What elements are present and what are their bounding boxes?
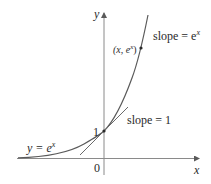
y-axis-label: y	[93, 7, 100, 21]
exp-graph: y x 0 1 y = ex (x, ex) slope = ex slope …	[0, 0, 211, 184]
point-label: (x, ex)	[113, 43, 137, 56]
y-intercept-label: 1	[93, 125, 99, 139]
x-axis-label: x	[193, 163, 200, 177]
general-point	[139, 46, 142, 49]
origin-label: 0	[94, 161, 100, 175]
curve-label: y = ex	[26, 140, 56, 155]
exp-curve	[18, 15, 148, 158]
slope-ex-label: slope = ex	[153, 28, 200, 43]
y-intercept-point	[102, 129, 105, 132]
slope-1-label: slope = 1	[127, 113, 171, 127]
